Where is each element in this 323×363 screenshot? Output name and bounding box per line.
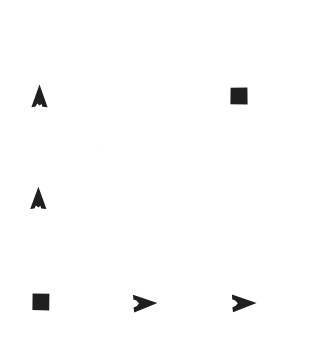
figure-canvas — [0, 0, 323, 363]
triangle-right-icon — [231, 294, 257, 313]
square-icon — [230, 87, 248, 105]
triangle-up-icon — [30, 84, 49, 108]
triangle-up-icon — [29, 186, 48, 210]
triangle-right-icon — [132, 294, 158, 313]
square-icon — [32, 293, 50, 311]
